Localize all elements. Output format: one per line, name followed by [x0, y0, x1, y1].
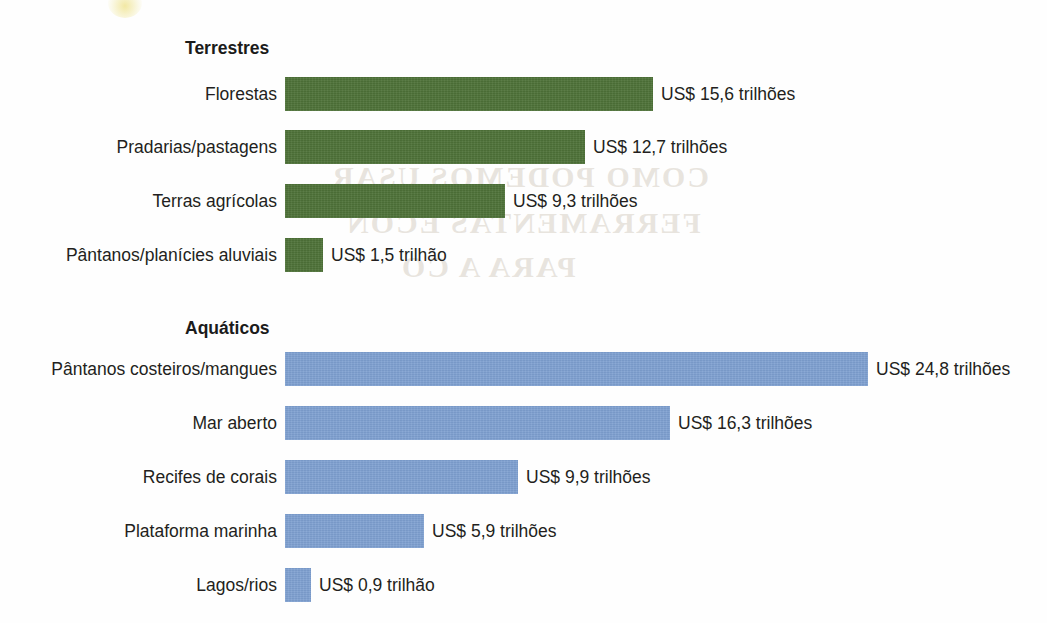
- section-heading-aquaticos: Aquáticos: [185, 318, 270, 339]
- value-label-lagos-rios: US$ 0,9 trilhão: [319, 575, 435, 596]
- bar-florestas: [285, 77, 653, 111]
- bar-row-mar-aberto: Mar aberto US$ 16,3 trilhões: [0, 406, 1047, 440]
- category-label-pradarias-pastagens: Pradarias/pastagens: [116, 137, 277, 158]
- category-label-recifes-de-corais: Recifes de corais: [143, 467, 277, 488]
- bar-pantanos-planicies-aluviais: [285, 238, 323, 272]
- value-label-pantanos-planicies-aluviais: US$ 1,5 trilhão: [331, 245, 447, 266]
- bar-row-plataforma-marinha: Plataforma marinha US$ 5,9 trilhões: [0, 514, 1047, 548]
- bar-row-pantanos-costeiros-mangues: Pântanos costeiros/mangues US$ 24,8 tril…: [0, 352, 1047, 386]
- value-label-mar-aberto: US$ 16,3 trilhões: [678, 413, 812, 434]
- category-label-lagos-rios: Lagos/rios: [196, 575, 277, 596]
- value-label-pantanos-costeiros-mangues: US$ 24,8 trilhões: [876, 359, 1010, 380]
- scan-artifact-blob: [108, 0, 142, 18]
- value-label-florestas: US$ 15,6 trilhões: [661, 84, 795, 105]
- bar-lagos-rios: [285, 568, 311, 602]
- bar-plataforma-marinha: [285, 514, 424, 548]
- section-heading-terrestres: Terrestres: [185, 38, 269, 59]
- bar-row-lagos-rios: Lagos/rios US$ 0,9 trilhão: [0, 568, 1047, 602]
- bar-row-recifes-de-corais: Recifes de corais US$ 9,9 trilhões: [0, 460, 1047, 494]
- category-label-terras-agricolas: Terras agrícolas: [153, 191, 278, 212]
- bar-pradarias-pastagens: [285, 130, 585, 164]
- chart-canvas: COMO PODEMOS USAR FERRAMENTAS ECON PARA …: [0, 0, 1047, 623]
- category-label-pantanos-costeiros-mangues: Pântanos costeiros/mangues: [51, 359, 277, 380]
- category-label-pantanos-planicies-aluviais: Pântanos/planícies aluviais: [66, 245, 277, 266]
- bar-row-terras-agricolas: Terras agrícolas US$ 9,3 trilhões: [0, 184, 1047, 218]
- bar-row-florestas: Florestas US$ 15,6 trilhões: [0, 77, 1047, 111]
- bar-terras-agricolas: [285, 184, 505, 218]
- value-label-terras-agricolas: US$ 9,3 trilhões: [513, 191, 638, 212]
- bar-recifes-de-corais: [285, 460, 518, 494]
- category-label-plataforma-marinha: Plataforma marinha: [124, 521, 277, 542]
- category-label-florestas: Florestas: [205, 84, 277, 105]
- bar-row-pradarias-pastagens: Pradarias/pastagens US$ 12,7 trilhões: [0, 130, 1047, 164]
- category-label-mar-aberto: Mar aberto: [192, 413, 277, 434]
- bar-pantanos-costeiros-mangues: [285, 352, 868, 386]
- bar-mar-aberto: [285, 406, 670, 440]
- value-label-recifes-de-corais: US$ 9,9 trilhões: [526, 467, 651, 488]
- value-label-plataforma-marinha: US$ 5,9 trilhões: [432, 521, 557, 542]
- bar-row-pantanos-planicies-aluviais: Pântanos/planícies aluviais US$ 1,5 tril…: [0, 238, 1047, 272]
- value-label-pradarias-pastagens: US$ 12,7 trilhões: [593, 137, 727, 158]
